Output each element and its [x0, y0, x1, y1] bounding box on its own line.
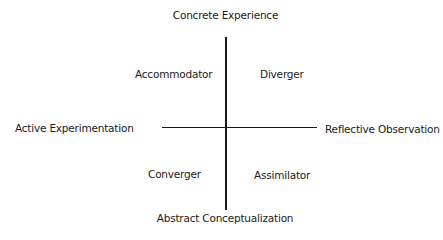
- quadrant-label-bottom-left: Converger: [148, 168, 201, 180]
- vertical-axis-line: [225, 37, 227, 210]
- horizontal-axis-line: [162, 127, 317, 129]
- axis-label-bottom: Abstract Conceptualization: [0, 212, 443, 224]
- axis-label-top: Concrete Experience: [0, 9, 443, 21]
- quadrant-label-bottom-right: Assimilator: [254, 169, 310, 181]
- quadrant-label-top-left: Accommodator: [135, 68, 212, 80]
- axis-label-right: Reflective Observation: [325, 123, 440, 135]
- axis-label-left: Active Experimentation: [15, 122, 134, 134]
- quadrant-label-top-right: Diverger: [260, 68, 304, 80]
- learning-styles-quadrant-diagram: Concrete Experience Abstract Conceptuali…: [0, 0, 443, 240]
